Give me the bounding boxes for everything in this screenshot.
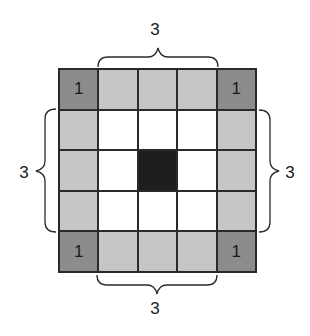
grid-cell-corner: 1 xyxy=(59,69,98,110)
grid-cell-interior xyxy=(138,191,177,232)
grid-cell-edge xyxy=(98,69,137,110)
bottom-brace-label: 3 xyxy=(150,300,159,317)
grid-cell-edge xyxy=(138,69,177,110)
grid-cell-edge xyxy=(217,150,256,191)
grid-cell-corner: 1 xyxy=(59,231,98,272)
grid-cell-interior xyxy=(138,110,177,151)
cell-grid: 1111 xyxy=(58,68,257,273)
grid-cell-interior xyxy=(177,150,216,191)
grid-cell-edge xyxy=(98,231,137,272)
grid-cell-edge xyxy=(177,69,216,110)
grid-cell-center xyxy=(138,150,177,191)
grid-cell-corner: 1 xyxy=(217,69,256,110)
grid-cell-interior xyxy=(98,150,137,191)
grid-cell-interior xyxy=(98,191,137,232)
grid-cell-interior xyxy=(177,110,216,151)
grid-cell-edge xyxy=(59,150,98,191)
left-brace xyxy=(36,109,56,232)
right-brace xyxy=(259,110,279,232)
grid-cell-edge xyxy=(217,110,256,151)
grid-cell-edge xyxy=(59,110,98,151)
top-brace-label: 3 xyxy=(150,21,159,38)
left-brace-label: 3 xyxy=(19,164,28,181)
grid-cell-interior xyxy=(98,110,137,151)
grid-cell-edge xyxy=(177,231,216,272)
grid-cell-edge xyxy=(138,231,177,272)
grid-diagram: 3 3 3 3 1111 xyxy=(0,0,310,336)
grid-cell-interior xyxy=(177,191,216,232)
grid-cell-edge xyxy=(217,191,256,232)
bottom-brace xyxy=(97,275,217,294)
grid-cell-edge xyxy=(59,191,98,232)
grid-cell-corner: 1 xyxy=(217,231,256,272)
right-brace-label: 3 xyxy=(285,164,294,181)
top-brace xyxy=(98,48,218,67)
